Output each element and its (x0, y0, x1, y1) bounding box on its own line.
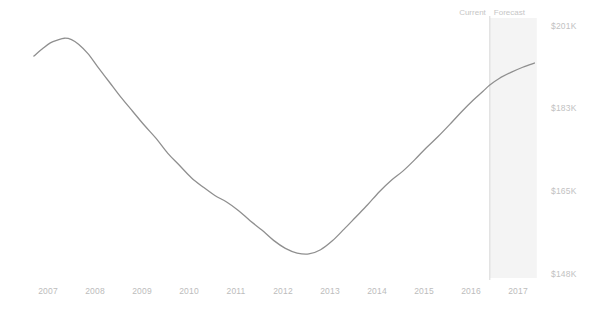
x-axis-tick-2015: 2015 (414, 287, 434, 296)
home-value-forecast-chart: $201K $183K $165K $148K 2007 2008 2009 2… (0, 0, 612, 325)
chart-plot-area (0, 0, 612, 325)
forecast-period-label: Forecast (494, 9, 525, 17)
x-axis-tick-2013: 2013 (320, 287, 340, 296)
x-axis-tick-2008: 2008 (85, 287, 105, 296)
x-axis-tick-2010: 2010 (179, 287, 199, 296)
x-axis-tick-2007: 2007 (38, 287, 58, 296)
x-axis-tick-2017: 2017 (508, 287, 528, 296)
x-axis-tick-2012: 2012 (273, 287, 293, 296)
x-axis-tick-2016: 2016 (461, 287, 481, 296)
y-axis-tick-1: $183K (551, 104, 577, 113)
forecast-region-shading (490, 18, 537, 278)
x-axis-tick-2011: 2011 (226, 287, 245, 296)
y-axis-tick-3: $148K (551, 270, 577, 279)
y-axis-tick-2: $165K (551, 187, 577, 196)
y-axis-tick-0: $201K (551, 22, 577, 31)
current-period-label: Current (459, 9, 486, 17)
home-value-line-series (34, 38, 535, 254)
x-axis-tick-2014: 2014 (367, 287, 387, 296)
x-axis-tick-2009: 2009 (132, 287, 152, 296)
